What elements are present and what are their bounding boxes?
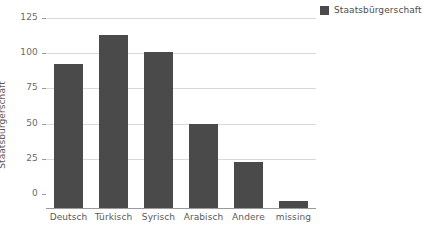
bar[interactable] (54, 64, 83, 208)
legend-label: Staatsbürgerschaft (334, 6, 422, 15)
x-axis-tick-label: missing (263, 213, 325, 222)
y-axis-tick-mark (42, 124, 46, 125)
y-axis-tick-label: 25 (4, 154, 38, 163)
y-axis-tick-label: 0 (4, 189, 38, 198)
bar[interactable] (99, 35, 128, 208)
y-axis-tick-label: 75 (4, 83, 38, 92)
bar[interactable] (189, 124, 218, 208)
bar-slot (181, 14, 226, 208)
bar[interactable] (279, 201, 308, 208)
bar[interactable] (234, 162, 263, 208)
y-axis-tick-mark (42, 159, 46, 160)
y-axis-tick-label: 125 (4, 13, 38, 22)
legend-swatch-icon (320, 6, 329, 15)
bar-slot (136, 14, 181, 208)
bar-slot (91, 14, 136, 208)
y-axis-tick-mark (42, 194, 46, 195)
y-axis-tick-label: 50 (4, 119, 38, 128)
bar-slot (271, 14, 316, 208)
bar-slot (226, 14, 271, 208)
bar-slot (46, 14, 91, 208)
y-axis-tick-label: 100 (4, 48, 38, 57)
x-axis-line (46, 208, 316, 209)
y-axis-tick-mark (42, 18, 46, 19)
y-axis-tick-mark (42, 88, 46, 89)
chart-legend: Staatsbürgerschaft (320, 6, 422, 15)
y-axis-tick-mark (42, 53, 46, 54)
bars-layer (46, 14, 316, 208)
bar[interactable] (144, 52, 173, 208)
